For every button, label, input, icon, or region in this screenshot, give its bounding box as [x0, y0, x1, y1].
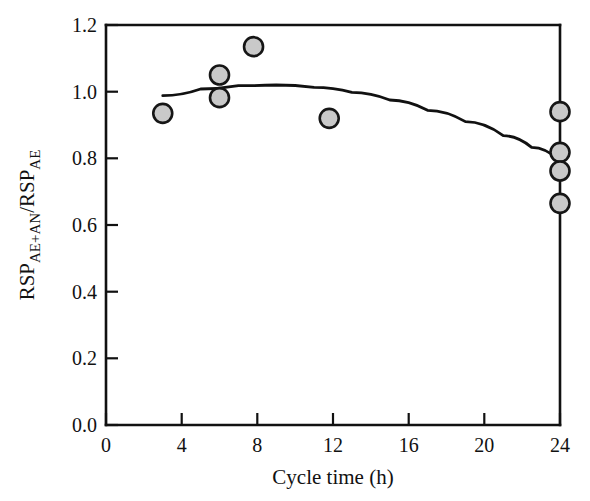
svg-text:RSPAE+AN/RSPAE: RSPAE+AN/RSPAE: [15, 150, 43, 301]
data-point: [551, 102, 570, 121]
data-point: [320, 109, 339, 128]
y-axis-title-base2: RSP: [15, 170, 39, 207]
y-tick-label: 0.2: [72, 347, 97, 369]
x-tick-label: 16: [399, 434, 419, 456]
scatter-plot: 0.0 0.2 0.4 0.6 0.8 1.0 1.2 0 4 8 12 16 …: [0, 0, 590, 501]
x-axis-ticks: [106, 413, 560, 425]
data-point: [551, 162, 570, 181]
data-point: [551, 194, 570, 213]
data-point: [210, 66, 229, 85]
x-tick-label: 8: [252, 434, 262, 456]
data-point: [244, 37, 263, 56]
x-tick-label: 0: [101, 434, 111, 456]
x-axis-tick-labels: 0 4 8 12 16 20 24: [101, 434, 570, 456]
y-tick-label: 0.8: [72, 147, 97, 169]
x-tick-label: 24: [550, 434, 570, 456]
y-tick-label: 0.4: [72, 281, 97, 303]
axes-frame: [106, 25, 560, 425]
y-tick-label: 0.6: [72, 214, 97, 236]
data-point: [210, 88, 229, 107]
x-axis-title: Cycle time (h): [272, 465, 393, 489]
data-point: [551, 143, 570, 162]
y-axis-title: RSPAE+AN/RSPAE: [15, 150, 43, 301]
x-tick-label: 12: [323, 434, 343, 456]
y-axis-title-sub2: AE: [27, 150, 43, 170]
x-tick-label: 4: [177, 434, 187, 456]
y-axis-title-base1: RSP: [15, 263, 39, 300]
data-point: [153, 104, 172, 123]
data-point-group: [153, 37, 569, 213]
y-tick-label: 0.0: [72, 414, 97, 436]
y-axis-title-sub1: AE+AN: [27, 213, 43, 263]
x-tick-label: 20: [474, 434, 494, 456]
y-axis-ticks: [106, 25, 118, 425]
y-tick-label: 1.0: [72, 81, 97, 103]
figure-container: 0.0 0.2 0.4 0.6 0.8 1.0 1.2 0 4 8 12 16 …: [0, 0, 590, 501]
y-axis-tick-labels: 0.0 0.2 0.4 0.6 0.8 1.0 1.2: [72, 14, 97, 436]
y-tick-label: 1.2: [72, 14, 97, 36]
